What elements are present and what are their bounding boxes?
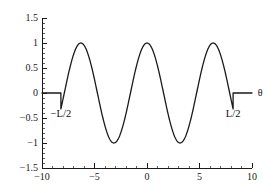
y-tick-label: 1 <box>33 38 38 48</box>
figure-container: 1.510.50−0.5−1−1.5 −10−50510 −L/2L/2θ <box>0 0 274 193</box>
x-axis-symbol: θ <box>258 88 263 98</box>
x-tick-label: −5 <box>89 172 100 182</box>
chart-canvas <box>0 0 274 193</box>
x-tick-label: 10 <box>247 172 257 182</box>
data-series-truncated-cosine <box>42 43 252 143</box>
y-tick-label: −0.5 <box>20 113 38 123</box>
y-tick-label: 0 <box>33 88 38 98</box>
left-truncation-label: −L/2 <box>51 109 72 120</box>
x-tick-label: −10 <box>34 172 50 182</box>
x-tick-label: 5 <box>197 172 202 182</box>
right-truncation-label: L/2 <box>226 109 241 120</box>
y-tick-label: 0.5 <box>26 63 39 73</box>
y-tick-label: 1.5 <box>26 13 39 23</box>
x-tick-label: 0 <box>145 172 150 182</box>
y-tick-label: −1 <box>27 138 38 148</box>
axes-group <box>42 18 252 168</box>
